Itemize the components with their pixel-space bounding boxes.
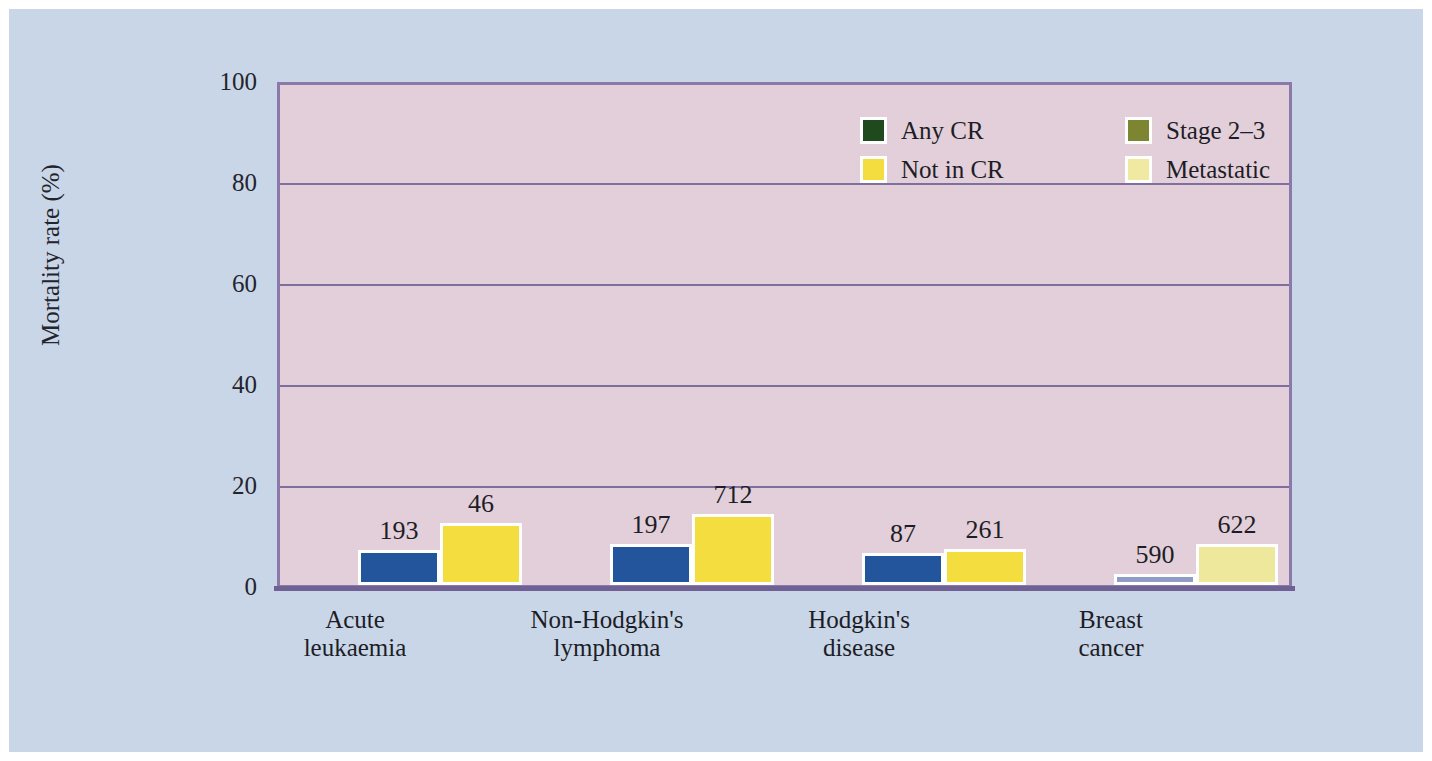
bar-value-label-metastatic-3: 622 (1177, 512, 1297, 538)
figure-card: Mortality rate (%) 100 80 60 40 20 0 193… (9, 9, 1423, 752)
y-tick-60: 60 (167, 271, 257, 296)
legend-swatch-any-cr (860, 117, 887, 144)
legend-label-any-cr: Any CR (901, 118, 1111, 143)
y-tick-0: 0 (167, 574, 257, 599)
x-label-acute-leukaemia: Acute leukaemia (240, 606, 470, 662)
bar-not-in-cr-2 (944, 549, 1026, 586)
bar-value-label-stage-2-3-3: 590 (1095, 542, 1215, 568)
bar-group-non-hodgkins-lymphoma: 197 712 (610, 79, 780, 585)
x-axis-line (274, 586, 1295, 591)
bar-value-label-not-in-cr-1: 712 (673, 482, 793, 508)
x-label-line-2: disease (744, 634, 974, 662)
y-tick-20: 20 (167, 473, 257, 498)
legend-label-not-in-cr: Not in CR (901, 157, 1111, 182)
bar-any-cr-2 (862, 553, 944, 586)
x-label-line-1: Non-Hodgkin's (492, 606, 722, 634)
legend-swatch-metastatic (1125, 156, 1152, 183)
bar-value-label-any-cr-0: 193 (339, 518, 459, 544)
legend-label-stage-2-3: Stage 2–3 (1166, 118, 1270, 143)
bar-value-label-any-cr-1: 197 (591, 512, 711, 538)
bar-value-label-not-in-cr-0: 46 (421, 491, 541, 517)
bar-any-cr-1 (610, 544, 692, 585)
y-tick-80: 80 (167, 170, 257, 195)
legend-swatch-stage-2-3 (1125, 117, 1152, 144)
bar-group-acute-leukaemia: 193 46 (358, 79, 528, 585)
x-label-line-1: Acute (240, 606, 470, 634)
legend-swatch-not-in-cr (860, 156, 887, 183)
bar-value-label-not-in-cr-2: 261 (925, 517, 1045, 543)
bar-any-cr-0 (358, 550, 440, 586)
x-label-line-2: leukaemia (240, 634, 470, 662)
x-label-line-1: Hodgkin's (744, 606, 974, 634)
bar-stage-2-3-3 (1114, 574, 1196, 586)
x-label-line-2: cancer (996, 634, 1226, 662)
x-label-non-hodgkins-lymphoma: Non-Hodgkin's lymphoma (492, 606, 722, 662)
legend-label-metastatic: Metastatic (1166, 157, 1270, 182)
y-axis-title: Mortality rate (%) (37, 95, 65, 415)
x-label-line-2: lymphoma (492, 634, 722, 662)
x-label-line-1: Breast (996, 606, 1226, 634)
y-tick-40: 40 (167, 372, 257, 397)
plot-area: 193 46 197 712 87 261 590 622 Any CR Sta… (277, 82, 1292, 588)
legend: Any CR Stage 2–3 Not in CR Metastatic (860, 117, 1270, 183)
x-label-hodgkins-disease: Hodgkin's disease (744, 606, 974, 662)
y-tick-100: 100 (167, 69, 257, 94)
x-label-breast-cancer: Breast cancer (996, 606, 1226, 662)
